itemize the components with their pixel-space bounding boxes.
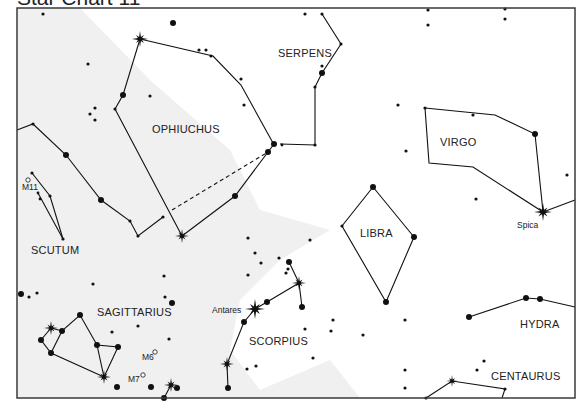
star — [474, 197, 477, 200]
star — [340, 224, 343, 227]
star — [163, 295, 166, 298]
bright-star-icon — [446, 375, 458, 387]
star — [565, 173, 568, 176]
star — [331, 318, 334, 321]
star — [161, 215, 164, 218]
constellation-line — [426, 381, 505, 398]
star — [246, 273, 249, 276]
star-label: Spica — [517, 220, 539, 230]
star — [403, 386, 406, 389]
constellation-line — [469, 298, 575, 317]
star — [93, 118, 96, 121]
star — [162, 274, 165, 277]
star — [281, 144, 284, 147]
star — [136, 324, 139, 327]
star — [286, 267, 289, 270]
star — [320, 12, 323, 15]
constellation-line — [280, 87, 315, 145]
star — [523, 295, 529, 301]
star-label: Antares — [212, 305, 241, 315]
constellation-label: SERPENS — [278, 47, 332, 59]
star — [383, 299, 389, 305]
constellation-label: SCUTUM — [31, 244, 79, 256]
star — [77, 312, 83, 318]
star — [239, 77, 242, 80]
star — [503, 387, 506, 390]
star — [254, 364, 257, 367]
star — [204, 48, 207, 51]
star — [35, 291, 38, 294]
constellation-label: SCORPIUS — [249, 335, 308, 347]
star — [329, 329, 332, 332]
constellation-label: SAGITTARIUS — [97, 306, 172, 318]
constellation-label: VIRGO — [440, 136, 477, 148]
star — [503, 17, 506, 20]
star — [128, 219, 131, 222]
star — [209, 54, 212, 57]
star — [259, 261, 262, 264]
star — [170, 20, 176, 26]
star-chart: SERPENSOPHIUCHUSVIRGOSCUTUMLIBRASAGITTAR… — [0, 0, 580, 417]
constellation-line — [289, 262, 299, 283]
star-label: M11 — [22, 182, 38, 192]
star — [91, 282, 94, 285]
star — [299, 304, 305, 310]
star-label: M6 — [142, 352, 154, 362]
star — [537, 296, 543, 302]
star — [59, 328, 65, 334]
star — [48, 350, 54, 356]
star — [403, 368, 406, 371]
star — [225, 385, 231, 391]
star — [308, 238, 311, 241]
star — [320, 64, 323, 67]
constellation-line — [425, 108, 543, 212]
constellation-line — [342, 187, 414, 302]
star — [313, 143, 316, 146]
star — [284, 271, 287, 274]
star — [532, 131, 538, 137]
constellation-line — [543, 200, 575, 212]
star — [94, 342, 100, 348]
constellation-line — [255, 283, 302, 309]
star — [232, 193, 238, 199]
star — [88, 112, 91, 115]
star — [482, 359, 485, 362]
star — [148, 384, 154, 390]
star — [303, 327, 306, 330]
star — [242, 103, 245, 106]
star — [197, 48, 200, 51]
star — [411, 234, 417, 240]
star — [27, 295, 30, 298]
star-label: M7 — [128, 374, 140, 384]
star — [403, 318, 406, 321]
star — [426, 23, 429, 26]
star — [148, 94, 151, 97]
star — [404, 149, 407, 152]
star — [245, 367, 248, 370]
constellation-line — [425, 108, 543, 212]
star — [265, 149, 271, 155]
star — [253, 251, 256, 254]
star — [18, 291, 24, 297]
star — [37, 192, 40, 195]
bright-star-icon — [245, 299, 265, 319]
star — [313, 85, 316, 88]
star — [30, 171, 33, 174]
star — [475, 368, 478, 371]
star — [319, 70, 325, 76]
milky-way-band — [17, 8, 360, 398]
star — [31, 122, 34, 125]
star — [370, 184, 376, 190]
constellation-label: LIBRA — [360, 227, 393, 239]
star — [113, 107, 116, 110]
bright-star-icon — [132, 31, 148, 47]
star — [41, 12, 44, 15]
star — [311, 356, 314, 359]
star — [93, 106, 96, 109]
star — [396, 103, 399, 106]
star — [86, 62, 89, 65]
star — [38, 337, 44, 343]
bright-star-icon — [292, 276, 306, 290]
star — [136, 234, 139, 237]
star — [466, 314, 472, 320]
